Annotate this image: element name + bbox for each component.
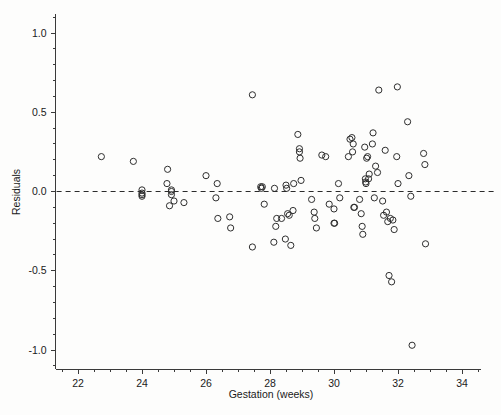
- data-point: [369, 141, 375, 147]
- data-point: [311, 209, 317, 215]
- data-point: [298, 177, 304, 183]
- data-point: [409, 342, 415, 348]
- data-point: [309, 196, 315, 202]
- data-point: [394, 84, 400, 90]
- data-point: [391, 226, 397, 232]
- residual-plot-figure: 22242628303234-1.0-0.50.00.51.0 Gestatio…: [0, 0, 501, 415]
- data-point: [382, 147, 388, 153]
- data-point: [181, 199, 187, 205]
- data-point: [406, 173, 412, 179]
- data-point: [349, 149, 355, 155]
- data-point: [373, 163, 379, 169]
- x-tick-label: 34: [456, 377, 468, 389]
- data-point: [227, 214, 233, 220]
- y-tick-label: 0.5: [32, 106, 47, 118]
- data-point: [350, 141, 356, 147]
- data-point: [164, 180, 170, 186]
- x-tick-label: 24: [136, 377, 148, 389]
- data-point: [376, 87, 382, 93]
- x-axis-title: Gestation (weeks): [229, 388, 314, 400]
- tick-labels-group: 22242628303234-1.0-0.50.00.51.0: [29, 27, 468, 389]
- data-point: [374, 169, 380, 175]
- data-point: [362, 144, 368, 150]
- data-point: [370, 130, 376, 136]
- y-tick-label: -1.0: [29, 344, 47, 356]
- data-point: [422, 161, 428, 167]
- data-point: [313, 225, 319, 231]
- data-point: [395, 180, 401, 186]
- data-point: [326, 201, 332, 207]
- y-axis-title: Residuals: [10, 169, 22, 215]
- data-point: [261, 201, 267, 207]
- data-point: [295, 131, 301, 137]
- x-tick-label: 32: [392, 377, 404, 389]
- data-point: [214, 180, 220, 186]
- data-point: [389, 279, 395, 285]
- data-point: [271, 185, 277, 191]
- data-point: [291, 180, 297, 186]
- data-point: [386, 272, 392, 278]
- data-point: [371, 195, 377, 201]
- data-point: [273, 223, 279, 229]
- data-point: [171, 198, 177, 204]
- data-point: [331, 206, 337, 212]
- data-point: [359, 223, 365, 229]
- x-tick-label: 30: [328, 377, 340, 389]
- data-point: [282, 236, 288, 242]
- x-tick-label: 26: [200, 377, 212, 389]
- data-point: [360, 231, 366, 237]
- data-point: [335, 180, 341, 186]
- data-point: [98, 154, 104, 160]
- data-point: [165, 166, 171, 172]
- data-point: [349, 135, 355, 141]
- data-point: [271, 239, 277, 245]
- data-point: [357, 196, 363, 202]
- data-point: [408, 193, 414, 199]
- data-point: [228, 225, 234, 231]
- data-point: [215, 215, 221, 221]
- y-tick-label: 0.0: [32, 185, 47, 197]
- data-point: [394, 154, 400, 160]
- data-point: [358, 211, 364, 217]
- y-tick-label: -0.5: [29, 264, 47, 276]
- y-tick-label: 1.0: [32, 27, 47, 39]
- data-point: [319, 152, 325, 158]
- scatter-plot-canvas: 22242628303234-1.0-0.50.00.51.0 Gestatio…: [0, 0, 501, 415]
- data-point: [288, 242, 294, 248]
- data-point: [337, 195, 343, 201]
- data-point: [290, 207, 296, 213]
- data-point: [421, 150, 427, 156]
- data-point: [422, 241, 428, 247]
- data-point: [312, 215, 318, 221]
- data-point: [249, 244, 255, 250]
- data-point: [213, 195, 219, 201]
- data-point: [249, 92, 255, 98]
- data-point: [405, 119, 411, 125]
- data-points-group: [98, 84, 428, 349]
- x-tick-label: 22: [72, 377, 84, 389]
- data-point: [323, 154, 329, 160]
- data-point: [203, 173, 209, 179]
- data-point: [297, 155, 303, 161]
- data-point: [380, 198, 386, 204]
- data-point: [130, 158, 136, 164]
